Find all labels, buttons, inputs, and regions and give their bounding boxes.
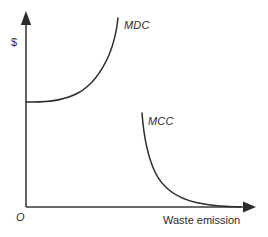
mcc-curve	[142, 113, 241, 207]
mdc-curve	[27, 18, 119, 102]
diagram-svg	[0, 0, 268, 237]
mcc-curve-label: MCC	[148, 116, 174, 127]
y-axis-arrow-icon	[21, 11, 31, 25]
x-axis-arrow-icon	[243, 202, 256, 213]
mdc-curve-label: MDC	[124, 20, 150, 31]
diagram-canvas: $ O Waste emission MDC MCC	[0, 0, 268, 237]
x-axis-label: Waste emission	[163, 215, 240, 226]
origin-label: O	[16, 212, 25, 223]
y-axis-label: $	[11, 37, 17, 48]
